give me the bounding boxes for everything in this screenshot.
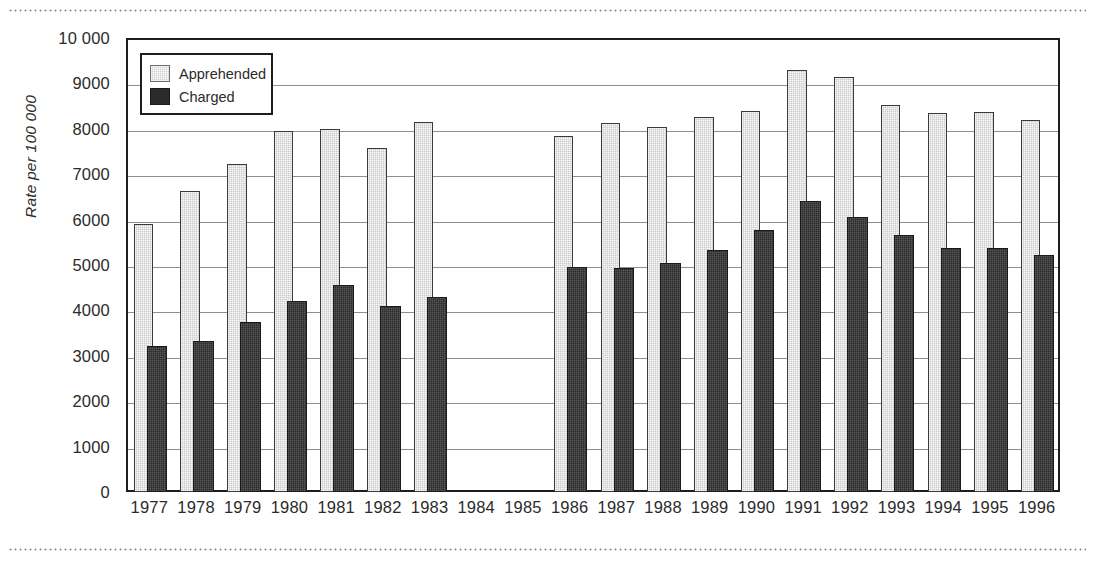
x-axis-tick-label: 1981 — [317, 498, 355, 517]
gridline — [128, 358, 1058, 359]
y-axis-tick-label: 7000 — [72, 165, 110, 184]
gridline — [128, 312, 1058, 313]
x-axis-tick-label: 1982 — [364, 498, 402, 517]
x-axis-tick-label: 1992 — [831, 498, 869, 517]
y-axis-tick-label: 8000 — [72, 119, 110, 138]
y-axis-tick-labels: 10 0009000800070006000500040003000200010… — [0, 38, 118, 492]
gridline — [128, 403, 1058, 404]
x-axis-tick-label: 1979 — [224, 498, 262, 517]
x-axis-tick-label: 1988 — [644, 498, 682, 517]
gridline — [128, 176, 1058, 177]
legend-swatch-apprehended-icon — [150, 65, 170, 82]
x-axis-tick-label: 1977 — [131, 498, 169, 517]
x-axis-tick-label: 1989 — [691, 498, 729, 517]
y-axis-tick-label: 0 — [101, 483, 110, 502]
legend-label-charged: Charged — [179, 89, 235, 105]
legend-swatch-charged-icon — [150, 88, 170, 105]
gridline — [128, 449, 1058, 450]
bottom-dotted-divider — [8, 548, 1086, 551]
top-dotted-divider — [8, 9, 1086, 12]
x-axis-tick-label: 1980 — [271, 498, 309, 517]
x-axis-tick-label: 1993 — [878, 498, 916, 517]
x-axis-tick-label: 1984 — [457, 498, 495, 517]
chart-legend: Apprehended Charged — [140, 53, 273, 115]
y-axis-tick-label: 6000 — [72, 210, 110, 229]
y-axis-tick-label: 4000 — [72, 301, 110, 320]
x-axis-tick-label: 1995 — [971, 498, 1009, 517]
x-axis-tick-label: 1986 — [551, 498, 589, 517]
x-axis-tick-label: 1978 — [177, 498, 215, 517]
x-axis-tick-label: 1996 — [1018, 498, 1056, 517]
legend-label-apprehended: Apprehended — [179, 66, 266, 82]
y-axis-tick-label: 1000 — [72, 437, 110, 456]
chart-figure: Rate per 100 000 10 00090008000700060005… — [0, 0, 1104, 565]
legend-item-charged: Charged — [150, 85, 271, 108]
legend-item-apprehended: Apprehended — [150, 62, 271, 85]
y-axis-tick-label: 3000 — [72, 346, 110, 365]
gridline — [128, 131, 1058, 132]
gridline — [128, 267, 1058, 268]
y-axis-tick-label: 9000 — [72, 74, 110, 93]
x-axis-tick-label: 1994 — [924, 498, 962, 517]
x-axis-tick-label: 1987 — [598, 498, 636, 517]
x-axis-tick-label: 1985 — [504, 498, 542, 517]
x-axis-tick-label: 1983 — [411, 498, 449, 517]
y-axis-tick-label: 10 000 — [58, 29, 110, 48]
y-axis-tick-label: 5000 — [72, 256, 110, 275]
x-axis-tick-label: 1991 — [784, 498, 822, 517]
y-axis-tick-label: 2000 — [72, 392, 110, 411]
x-axis-tick-labels: 1977197819791980198119821983198419851986… — [126, 498, 1060, 526]
x-axis-tick-label: 1990 — [738, 498, 776, 517]
gridline — [128, 222, 1058, 223]
